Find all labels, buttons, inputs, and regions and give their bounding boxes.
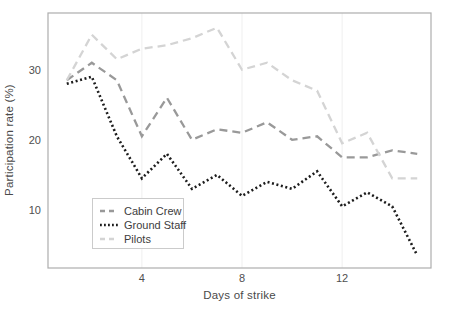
x-axis-title: Days of strike [48, 289, 431, 301]
y-tick-label: 20 [29, 134, 41, 146]
legend-item-pilots: Pilots [99, 232, 183, 246]
x-tick-label: 12 [336, 272, 348, 284]
pilots-line-sample-icon [99, 235, 119, 243]
strike-participation-figure: 4812102030 Participation rate (%) Days o… [0, 0, 451, 317]
legend-item-ground-staff: Ground Staff [99, 218, 183, 232]
x-tick-label: 4 [139, 272, 145, 284]
y-tick-label: 10 [29, 204, 41, 216]
strike-participation-chart: 4812102030 [0, 0, 451, 317]
legend-label-cabin-crew: Cabin Crew [124, 204, 181, 218]
legend-label-pilots: Pilots [124, 232, 151, 246]
legend-label-ground-staff: Ground Staff [124, 218, 186, 232]
ground-staff-line-sample-icon [99, 221, 119, 229]
legend-item-cabin-crew: Cabin Crew [99, 204, 183, 218]
x-tick-label: 8 [239, 272, 245, 284]
legend: Cabin Crew Ground Staff Pilots [92, 198, 184, 249]
cabin-crew-line-sample-icon [99, 207, 119, 215]
y-axis-title: Participation rate (%) [3, 65, 15, 215]
y-tick-label: 30 [29, 64, 41, 76]
